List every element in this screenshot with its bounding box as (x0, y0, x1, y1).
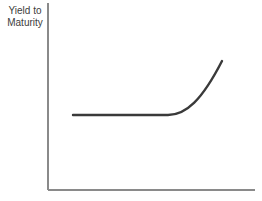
plot-area (0, 0, 262, 201)
yield-curve-figure: Yield toMaturity (0, 0, 262, 201)
yield-curve-line (73, 61, 222, 115)
